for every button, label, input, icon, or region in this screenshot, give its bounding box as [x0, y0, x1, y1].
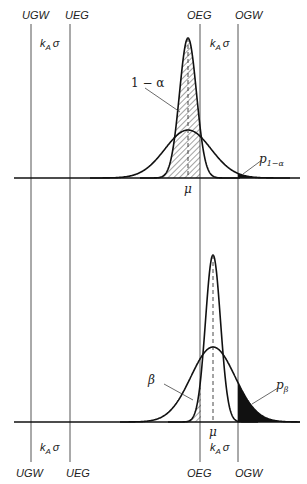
oeg-label-top: OEG [187, 9, 212, 21]
mu-label-top: μ [184, 182, 192, 196]
beta-leader [164, 384, 193, 400]
k-sigma-right-bottom: kAσ [210, 441, 230, 456]
top-panel [14, 38, 300, 178]
alpha-leader [145, 88, 180, 112]
bottom-panel [14, 255, 300, 422]
k-sigma-left-bottom: kAσ [40, 441, 60, 456]
k-sigma-left-top: kAσ [40, 37, 60, 52]
tolerance-diagram: UGW UEG OEG OGW kAσ kAσ 1 − α μ p1−α β p… [0, 0, 307, 484]
beta-label: β [147, 373, 155, 387]
p-alpha-label: p1−α [259, 152, 284, 168]
ueg-label-top: UEG [65, 9, 89, 21]
oeg-label-bottom: OEG [187, 467, 212, 479]
one-minus-alpha-label: 1 − α [131, 76, 164, 90]
k-sigma-right-top: kAσ [210, 37, 230, 52]
ugw-label-bottom: UGW [16, 467, 45, 479]
ogw-label-bottom: OGW [235, 467, 264, 479]
p-beta-label: pβ [276, 378, 289, 394]
ueg-label-bottom: UEG [66, 467, 90, 479]
bottom-wide-curve [120, 347, 300, 422]
mu-label-bottom: μ [209, 425, 217, 439]
p-beta-leader [252, 388, 278, 404]
ogw-label-top: OGW [235, 9, 264, 21]
ugw-label-top: UGW [22, 9, 51, 21]
